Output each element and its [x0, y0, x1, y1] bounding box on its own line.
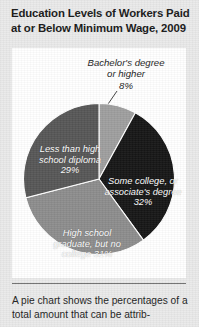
callout-line-1: Bachelor's degree [72, 57, 180, 68]
chart-card: Bachelor's degree or higher 8% Less than… [12, 48, 186, 278]
pie-chart-svg [23, 103, 175, 255]
bachelors-callout: Bachelor's degree or higher 8% [72, 57, 180, 91]
callout-line-2: or higher [72, 68, 180, 79]
pie-chart [23, 103, 175, 255]
section-divider [12, 283, 186, 284]
callout-line-3: 8% [72, 80, 180, 91]
figure-title: Education Levels of Workers Paid at or B… [11, 6, 191, 35]
caption-text: A pie chart shows the percentages of a t… [12, 294, 192, 321]
